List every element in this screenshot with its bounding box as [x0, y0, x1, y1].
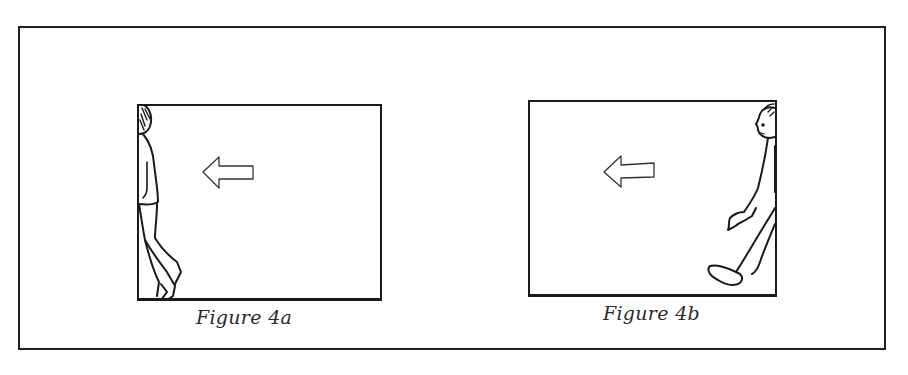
left-arrow-icon — [604, 156, 654, 187]
walking-person-exit-illustration — [139, 106, 382, 301]
left-arrow-icon — [203, 157, 253, 188]
walking-person-enter-illustration — [530, 102, 777, 297]
panel-figure-4b — [528, 100, 777, 297]
panel-figure-4a — [137, 104, 382, 301]
caption-figure-4b: Figure 4b — [603, 302, 700, 324]
caption-figure-4a: Figure 4a — [196, 306, 292, 328]
